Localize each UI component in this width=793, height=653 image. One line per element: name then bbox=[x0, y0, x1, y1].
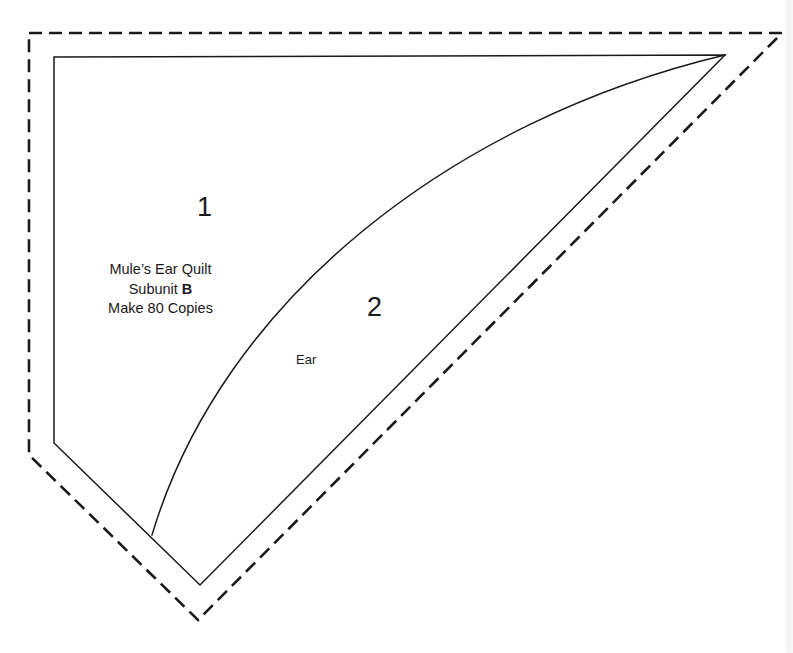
copies-line: Make 80 Copies bbox=[38, 299, 283, 319]
pattern-info-block: Mule’s Ear Quilt Subunit B Make 80 Copie… bbox=[38, 260, 283, 319]
subunit-letter: B bbox=[182, 281, 192, 297]
subunit-label: Subunit bbox=[129, 281, 182, 297]
sewing-line-solid-outline bbox=[54, 55, 725, 585]
region-2-number: 2 bbox=[367, 294, 382, 321]
pattern-drawing bbox=[0, 0, 793, 653]
ear-piece-label: Ear bbox=[296, 353, 316, 366]
seam-allowance-dashed-outline bbox=[29, 33, 782, 620]
region-1-number: 1 bbox=[197, 194, 212, 221]
quilt-name-line: Mule’s Ear Quilt bbox=[38, 260, 283, 280]
pattern-page: 1 2 Mule’s Ear Quilt Subunit B Make 80 C… bbox=[0, 0, 793, 653]
subunit-line: Subunit B bbox=[38, 280, 283, 300]
